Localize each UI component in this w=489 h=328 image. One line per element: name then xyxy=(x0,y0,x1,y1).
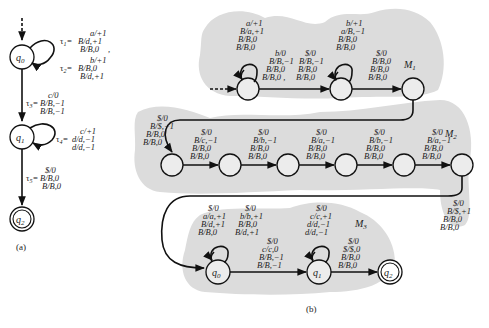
svg-text:B/B,0: B/B,0 xyxy=(364,151,384,161)
svg-text:τ2=: τ2= xyxy=(60,63,72,74)
m2-state-2 xyxy=(219,154,241,176)
svg-text:τ4=: τ4= xyxy=(56,134,68,145)
m2-state-6 xyxy=(451,154,473,176)
svg-text:B/B,0: B/B,0 xyxy=(42,181,62,191)
svg-text:B/B,0: B/B,0 xyxy=(422,151,442,161)
svg-text:d/d,−1: d/d,−1 xyxy=(72,142,95,152)
svg-text:B/B,−1: B/B,−1 xyxy=(40,106,65,116)
svg-text:τ3=: τ3= xyxy=(26,98,38,109)
svg-text:d/d,−1: d/d,−1 xyxy=(305,227,328,237)
part-a-diagram: q0 τ1= a/+1 B/d,+1 B/B,0 , τ2= b/+1 B/B,… xyxy=(10,18,110,252)
label-t1: τ1= a/+1 B/d,+1 B/B,0 , xyxy=(60,28,110,54)
svg-text:B/B,0: B/B,0 xyxy=(236,42,256,52)
svg-text:B/B,0: B/B,0 xyxy=(296,72,316,82)
automaton-figure: q0 τ1= a/+1 B/d,+1 B/B,0 , τ2= b/+1 B/B,… xyxy=(0,0,489,328)
m1-state-1 xyxy=(237,78,259,100)
svg-text:B/B,−1: B/B,−1 xyxy=(257,260,282,270)
svg-text:B/B,0: B/B,0 xyxy=(143,137,163,147)
svg-text:B/B,0: B/B,0 xyxy=(190,151,210,161)
m2-state-1 xyxy=(161,154,183,176)
svg-text:B/B,0: B/B,0 xyxy=(336,42,356,52)
m2-state-4 xyxy=(335,154,357,176)
label-t4: τ4= c/+1 d/d,−1 d/d,−1 xyxy=(56,126,96,152)
m3-q0-loop2-label: $/0 b/b,+1 B/B,0 B/d,+1 xyxy=(235,203,263,237)
caption-b: (b) xyxy=(306,304,317,314)
label-t3: τ3= c/0 B/B,−1 B/B,−1 xyxy=(26,90,65,116)
label-t5: τ5= $/0 B/B,0 B/B,0 xyxy=(26,165,62,191)
m2-state-5 xyxy=(393,154,415,176)
svg-text:B/B,0: B/B,0 xyxy=(368,72,388,82)
svg-text:B/B,0: B/B,0 xyxy=(248,151,268,161)
svg-text:B/B,0: B/B,0 xyxy=(440,222,460,232)
part-b-diagram: M1 M2 M3 a/+1 B/a,+1 B/B,0 B/B,0 b/0 B/B… xyxy=(134,9,473,314)
svg-text:B/B,0: B/B,0 xyxy=(338,260,358,270)
svg-text:τ1=: τ1= xyxy=(60,36,72,47)
svg-text:,: , xyxy=(108,44,110,54)
svg-text:τ5=: τ5= xyxy=(26,173,38,184)
svg-text:B/B,0 ,: B/B,0 , xyxy=(262,72,285,82)
svg-text:B/B,0: B/B,0 xyxy=(306,151,326,161)
label-t2: τ2= b/+1 B/B,0 B/d,+1 xyxy=(60,55,107,81)
caption-a: (a) xyxy=(16,242,26,252)
svg-text:B/d,+1: B/d,+1 xyxy=(235,227,259,237)
svg-text:B/d,+1: B/d,+1 xyxy=(80,71,104,81)
svg-text:B/B,0: B/B,0 xyxy=(198,227,218,237)
m1-state-3 xyxy=(402,78,424,100)
m2-state-3 xyxy=(277,154,299,176)
svg-text:B/B,0: B/B,0 xyxy=(80,44,100,54)
